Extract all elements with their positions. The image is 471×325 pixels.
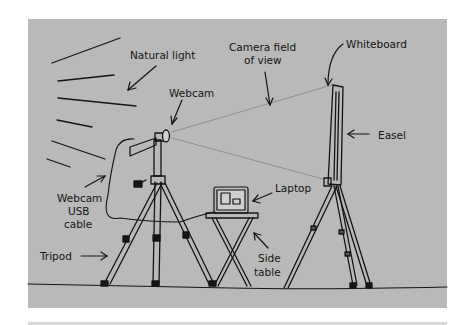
label-side-line1: Side	[258, 252, 281, 264]
label-side-line2: table	[254, 266, 281, 278]
field-of-view-lines	[172, 85, 332, 179]
ground-line	[28, 284, 447, 289]
label-laptop: Laptop	[275, 182, 311, 194]
label-usb-line2: USB	[68, 205, 90, 217]
easel	[284, 186, 372, 288]
label-easel: Easel	[378, 129, 406, 141]
laptop	[214, 187, 248, 213]
label-webcam: Webcam	[169, 87, 214, 99]
label-whiteboard: Whiteboard	[346, 38, 407, 50]
label-usb-line3: cable	[64, 218, 92, 230]
webcam	[130, 130, 170, 156]
light-rays	[47, 38, 136, 167]
label-natural-light: Natural light	[130, 49, 195, 61]
tripod	[101, 140, 216, 286]
label-tripod: Tripod	[39, 250, 72, 262]
setup-illustration: Natural light Camera field of view White…	[0, 0, 471, 325]
whiteboard	[324, 85, 343, 186]
label-usb-line1: Webcam	[57, 192, 102, 204]
side-table	[206, 213, 258, 286]
label-camera-fov-line2: of view	[244, 54, 282, 66]
label-camera-fov-line1: Camera field	[229, 41, 296, 53]
